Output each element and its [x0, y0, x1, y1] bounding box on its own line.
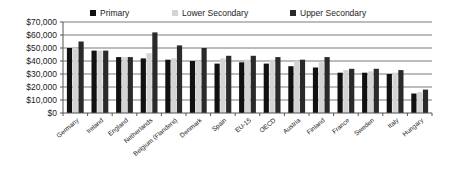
- bar-group: [387, 70, 404, 113]
- bar: [103, 51, 108, 113]
- bar: [239, 62, 244, 113]
- bar: [171, 58, 176, 113]
- bar-group: [141, 32, 158, 113]
- bar: [165, 60, 170, 113]
- bar: [270, 60, 275, 113]
- bar-chart: $0$10,000$20,000$30,000$40,000$50,000$60…: [0, 0, 454, 173]
- bar: [97, 51, 102, 113]
- y-tick-label: $60,000: [26, 30, 57, 40]
- legend-label: Upper Secondary: [300, 8, 367, 18]
- bar-group: [116, 57, 133, 113]
- bar-group: [411, 90, 428, 113]
- bar: [374, 69, 379, 113]
- bar: [423, 90, 428, 113]
- x-tick-label: Austria: [281, 116, 301, 135]
- bar-group: [215, 56, 232, 113]
- x-tick-label: Germany: [55, 116, 81, 140]
- bar: [393, 73, 398, 113]
- y-tick-label: $70,000: [26, 17, 57, 27]
- bar: [141, 58, 146, 113]
- bar: [398, 70, 403, 113]
- bar-group: [92, 51, 109, 113]
- x-tick-label: Denmark: [178, 116, 203, 139]
- bar-group: [313, 57, 330, 113]
- bar: [349, 69, 354, 113]
- bar: [338, 73, 343, 113]
- x-tick-label: Belgium (Flanders): [132, 116, 179, 157]
- bar: [251, 56, 256, 113]
- legend-swatch: [90, 10, 96, 16]
- bar: [147, 53, 152, 113]
- legend-swatch: [172, 10, 178, 16]
- y-tick-label: $20,000: [26, 82, 57, 92]
- bar: [128, 57, 133, 113]
- bar: [177, 45, 182, 113]
- bar: [202, 48, 207, 113]
- y-tick-label: $50,000: [26, 43, 57, 53]
- bar: [417, 92, 422, 113]
- y-tick-label: $0: [48, 108, 58, 118]
- bar: [220, 58, 225, 113]
- x-tick-label: Finland: [305, 116, 326, 135]
- x-tick-label: France: [331, 116, 351, 135]
- x-axis: GermanyIrelandEnglandNetherlandsBelgium …: [55, 113, 432, 158]
- y-axis: $0$10,000$20,000$30,000$40,000$50,000$60…: [26, 17, 63, 118]
- x-tick-label: Italy: [386, 116, 401, 130]
- y-tick-label: $40,000: [26, 56, 57, 66]
- bar: [288, 66, 293, 113]
- bar: [319, 62, 324, 113]
- bar-group: [362, 69, 379, 113]
- bar-group: [288, 60, 305, 113]
- bar-group: [165, 45, 182, 113]
- bar: [122, 57, 127, 113]
- bar: [313, 68, 318, 114]
- x-tick-label: Sweden: [353, 116, 376, 137]
- bar: [275, 57, 280, 113]
- legend-label: Lower Secondary: [182, 8, 249, 18]
- bar: [325, 57, 330, 113]
- legend: PrimaryLower SecondaryUpper Secondary: [90, 8, 367, 18]
- bar: [73, 48, 78, 113]
- bars: [67, 32, 428, 113]
- y-tick-label: $30,000: [26, 69, 57, 79]
- bar: [294, 61, 299, 113]
- bar: [343, 70, 348, 113]
- x-tick-label: OECD: [258, 116, 277, 134]
- bar: [226, 56, 231, 113]
- bar-group: [264, 57, 281, 113]
- bar: [245, 60, 250, 113]
- bar: [152, 32, 157, 113]
- bar: [116, 57, 121, 113]
- y-tick-label: $10,000: [26, 95, 57, 105]
- x-tick-label: Hungary: [401, 116, 426, 138]
- bar-group: [67, 42, 84, 114]
- bar: [300, 60, 305, 113]
- bar: [190, 61, 195, 113]
- x-tick-label: Spain: [210, 116, 228, 133]
- bar: [264, 64, 269, 113]
- bar: [387, 74, 392, 113]
- bar: [411, 94, 416, 114]
- legend-swatch: [290, 10, 296, 16]
- bar-group: [190, 48, 207, 113]
- bar: [215, 64, 220, 113]
- x-tick-label: EU-15: [234, 116, 253, 133]
- bar: [362, 73, 367, 113]
- legend-label: Primary: [100, 8, 130, 18]
- bar: [196, 61, 201, 113]
- bar-group: [239, 56, 256, 113]
- bar: [92, 51, 97, 113]
- x-tick-label: Ireland: [85, 116, 105, 134]
- bar-group: [338, 69, 355, 113]
- bar: [368, 71, 373, 113]
- bar: [67, 48, 72, 113]
- bar: [79, 42, 84, 114]
